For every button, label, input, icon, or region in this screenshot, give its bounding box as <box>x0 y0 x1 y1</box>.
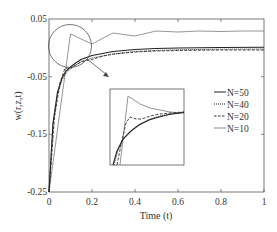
y-tick-label: -0.25 <box>27 187 47 197</box>
svg-text:N=20: N=20 <box>227 112 249 122</box>
svg-text:N=10: N=10 <box>227 124 249 134</box>
x-tick-label: 0.8 <box>215 197 227 207</box>
y-axis-label: w(r,z,t) <box>12 91 24 120</box>
y-tick-label: -0.05 <box>27 72 47 82</box>
x-tick-label: 0 <box>47 197 52 207</box>
svg-text:N=50: N=50 <box>227 88 249 98</box>
y-tick-label: 0.05 <box>30 14 47 24</box>
x-tick-label: 1 <box>262 197 267 207</box>
x-tick-label: 0.6 <box>172 197 184 207</box>
x-axis-label: Time (t) <box>140 210 173 222</box>
x-tick-label: 0.4 <box>129 197 141 207</box>
svg-text:N=40: N=40 <box>227 100 249 110</box>
zoom-inset <box>110 89 184 165</box>
line-chart: 0 0.2 0.4 0.6 0.8 1 0.05 -0.05 -0.15 -0.… <box>0 0 277 232</box>
x-tick-label: 0.2 <box>86 197 98 207</box>
y-tick-label: -0.15 <box>27 129 47 139</box>
